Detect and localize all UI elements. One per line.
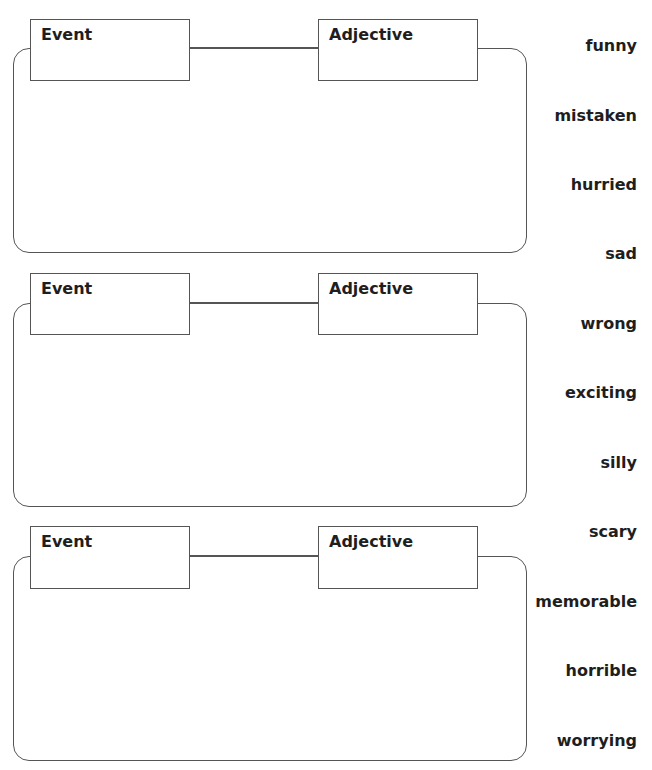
word-bank-item: worrying <box>557 731 637 750</box>
word-bank-item: exciting <box>565 383 637 402</box>
word-bank-item: scary <box>589 522 637 541</box>
connector-line-3 <box>190 555 318 556</box>
adjective-label: Adjective <box>329 532 413 551</box>
word-bank-item: mistaken <box>554 106 637 125</box>
connector-line-2 <box>190 302 318 303</box>
adjective-box-2[interactable]: Adjective <box>318 273 478 335</box>
event-box-1[interactable]: Event <box>30 19 190 81</box>
word-bank-item: horrible <box>566 661 637 680</box>
adjective-label: Adjective <box>329 25 413 44</box>
adjective-box-3[interactable]: Adjective <box>318 526 478 589</box>
word-bank-item: silly <box>601 453 637 472</box>
word-bank-item: wrong <box>580 314 637 333</box>
word-bank-item: funny <box>585 36 637 55</box>
event-box-3[interactable]: Event <box>30 526 190 589</box>
word-bank-item: sad <box>605 244 637 263</box>
event-label: Event <box>41 532 92 551</box>
word-bank-item: memorable <box>535 592 637 611</box>
event-box-2[interactable]: Event <box>30 273 190 335</box>
adjective-box-1[interactable]: Adjective <box>318 19 478 81</box>
event-label: Event <box>41 25 92 44</box>
event-label: Event <box>41 279 92 298</box>
word-bank-item: hurried <box>571 175 637 194</box>
connector-line-1 <box>190 47 318 48</box>
adjective-label: Adjective <box>329 279 413 298</box>
